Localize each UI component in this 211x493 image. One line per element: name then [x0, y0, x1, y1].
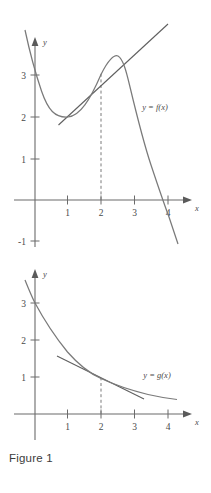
y-axis-label: y: [42, 37, 47, 47]
x-ticklabel-1: 1: [65, 208, 70, 218]
figure-container: y x 1 2 3 4 3 2 1 -1 y = f(x): [0, 0, 211, 493]
curve-label-g: y = g(x): [142, 370, 171, 380]
x-axis-arrow-icon: [183, 411, 192, 418]
y-ticklabel-2: 2: [21, 113, 26, 123]
x-ticklabel-4: 4: [166, 422, 171, 432]
x-ticklabel-2: 2: [99, 422, 104, 432]
y-ticklabel-1: 1: [21, 373, 26, 383]
x-axis-arrow-icon: [183, 197, 192, 204]
y-ticklabel-2: 2: [21, 336, 26, 346]
x-ticklabel-1: 1: [65, 422, 70, 432]
y-ticklabel-3: 3: [21, 71, 26, 81]
y-ticklabel-1: 1: [21, 155, 26, 165]
x-axis-label: x: [194, 417, 199, 427]
curve-g-of-x: [25, 280, 177, 400]
x-ticklabel-3: 3: [132, 208, 137, 218]
y-ticklabel-3: 3: [21, 299, 26, 309]
x-ticklabel-2: 2: [99, 208, 104, 218]
curve-label-f: y = f(x): [141, 102, 168, 112]
y-ticklabel-minus-1: -1: [18, 237, 26, 247]
chart-top-f-of-x: y x 1 2 3 4 3 2 1 -1 y = f(x): [0, 0, 211, 250]
y-axis-arrow-icon: [32, 37, 39, 46]
figure-caption: Figure 1: [9, 452, 53, 464]
x-ticklabel-3: 3: [132, 422, 137, 432]
chart-bottom-g-of-x: y x 1 2 3 4 3 2 1 y = g(x): [0, 250, 211, 450]
x-axis-label: x: [194, 203, 199, 213]
tangent-line-g: [57, 356, 144, 399]
y-axis-label: y: [42, 269, 47, 279]
y-axis-arrow-icon: [32, 269, 39, 278]
